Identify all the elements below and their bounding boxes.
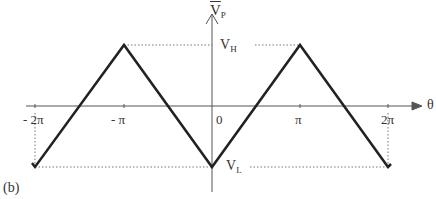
- x-axis-arrow-icon: [412, 102, 422, 110]
- x-tick-label: - 2π: [23, 112, 44, 128]
- panel-label: (b): [3, 180, 19, 196]
- level-high-label: VH: [220, 37, 237, 54]
- x-tick-label: π: [295, 112, 302, 128]
- diagram-canvas: [0, 0, 436, 199]
- x-tick-label: - π: [111, 112, 125, 128]
- level-low-label: VL: [226, 158, 242, 175]
- triangle-wave-diagram: VP θ VH VL - 2π - π 0 π 2π (b): [0, 0, 436, 199]
- x-axis-label: θ: [427, 97, 434, 113]
- x-tick-label: 0: [216, 112, 223, 128]
- y-axis-label: VP: [210, 2, 226, 20]
- x-tick-label: 2π: [381, 112, 394, 128]
